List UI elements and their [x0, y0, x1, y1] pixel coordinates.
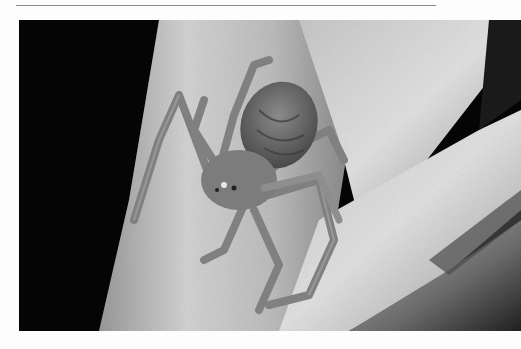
horizontal-rule	[16, 5, 436, 6]
spider-illustration	[19, 20, 521, 331]
spider-cephalothorax	[201, 150, 277, 210]
spider-photo	[19, 20, 521, 331]
